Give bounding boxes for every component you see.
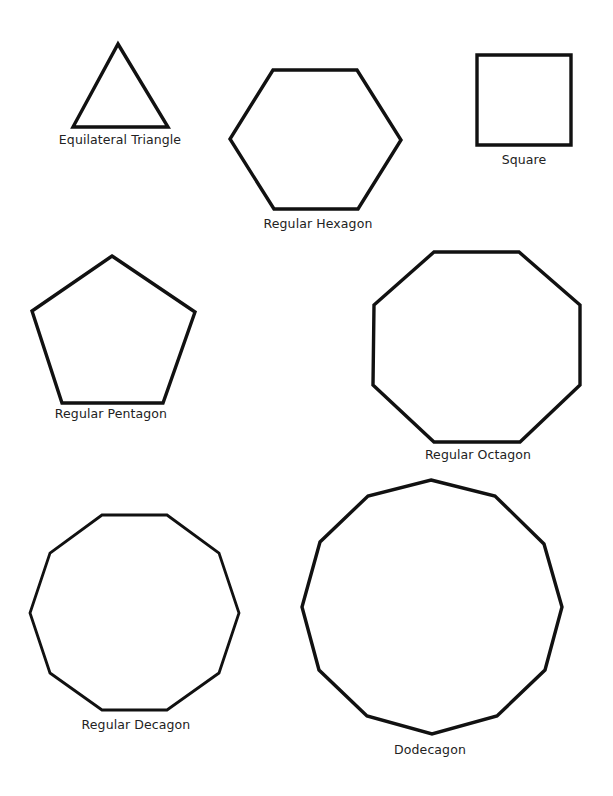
regular-hexagon-shape [230,70,401,209]
equilateral-triangle-shape [73,44,168,127]
square-shape [477,55,571,145]
square-label: Square [502,154,547,167]
dodecagon-shape [302,480,562,734]
regular-pentagon-shape [32,256,195,403]
dodecagon-label: Dodecagon [394,744,466,757]
regular-pentagon-label: Regular Pentagon [55,408,167,421]
regular-hexagon-label: Regular Hexagon [264,218,373,231]
regular-decagon-label: Regular Decagon [82,719,191,732]
regular-octagon-shape [373,252,580,442]
regular-decagon-shape [30,515,239,710]
shapes-canvas [0,0,613,796]
regular-octagon-label: Regular Octagon [425,449,531,462]
equilateral-triangle-label: Equilateral Triangle [59,134,181,147]
